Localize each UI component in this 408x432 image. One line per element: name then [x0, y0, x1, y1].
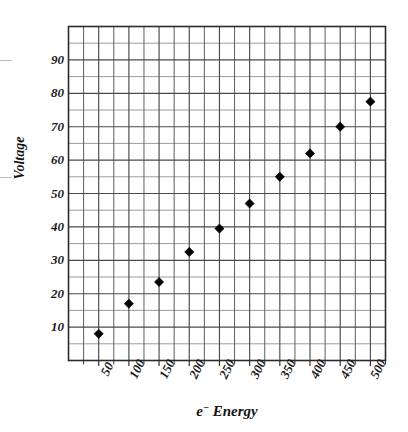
y-axis-title: Voltage [12, 113, 28, 203]
x-axis-title: e− Energy [68, 402, 386, 420]
chart-figure: 102030405060708090 501001502002503003504… [0, 0, 408, 432]
x-tick-label: 350 [271, 344, 305, 395]
x-axis-tick-labels: 50100150200250300350400450500 [0, 0, 408, 432]
x-tick-label: 100 [120, 344, 154, 395]
x-tick-label: 450 [331, 344, 365, 395]
x-axis-title-prefix: e [196, 403, 203, 419]
x-tick-label: 250 [210, 344, 244, 395]
x-tick-label: 300 [241, 344, 275, 395]
x-tick-label: 200 [180, 344, 214, 395]
x-tick-label: 500 [361, 344, 395, 395]
x-tick-label: 150 [150, 344, 184, 395]
x-axis-title-suffix: Energy [209, 403, 258, 419]
x-tick-label: 50 [90, 344, 124, 395]
x-tick-label: 400 [301, 344, 335, 395]
